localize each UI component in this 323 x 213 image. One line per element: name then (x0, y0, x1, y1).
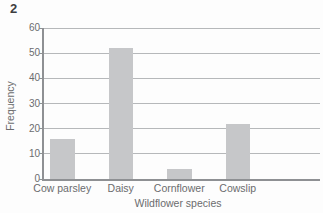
x-axis-title: Wildflower species (135, 197, 222, 209)
gridline-30 (44, 103, 320, 104)
y-axis-line (42, 28, 44, 181)
question-number: 2 (10, 1, 17, 16)
plot-area (44, 28, 320, 179)
y-tick-label-60: 60 (0, 22, 40, 34)
x-axis-line (42, 179, 320, 181)
bar-cow-parsley (50, 139, 75, 179)
bar-cornflower (167, 169, 192, 179)
gridline-40 (44, 78, 320, 79)
x-category-label-cornflower: Cornflower (154, 182, 205, 194)
gridline-50 (44, 53, 320, 54)
x-category-label-cowslip: Cowslip (219, 182, 256, 194)
x-category-label-cow-parsley: Cow parsley (33, 182, 91, 194)
gridline-10 (44, 153, 320, 154)
x-axis-category-labels: Cow parsleyDaisyCornflowerCowslip (44, 182, 320, 195)
y-tick-label-30: 30 (0, 98, 40, 110)
bar-daisy (109, 48, 134, 179)
gridline-60 (44, 28, 320, 29)
gridline-20 (44, 128, 320, 129)
y-tick-label-40: 40 (0, 72, 40, 84)
y-tick-label-20: 20 (0, 123, 40, 135)
x-category-label-daisy: Daisy (108, 182, 134, 194)
y-axis-tick-0 (39, 179, 44, 180)
bar-cowslip (226, 124, 251, 179)
y-tick-label-10: 10 (0, 148, 40, 160)
y-tick-label-50: 50 (0, 47, 40, 59)
page-background: { "figure": { "question_number": "2" }, … (0, 0, 323, 213)
y-axis-tick-labels: 0102030405060 (0, 28, 40, 179)
worksheet-figure: 2 Frequency 0102030405060 Cow parsleyDai… (0, 0, 323, 213)
